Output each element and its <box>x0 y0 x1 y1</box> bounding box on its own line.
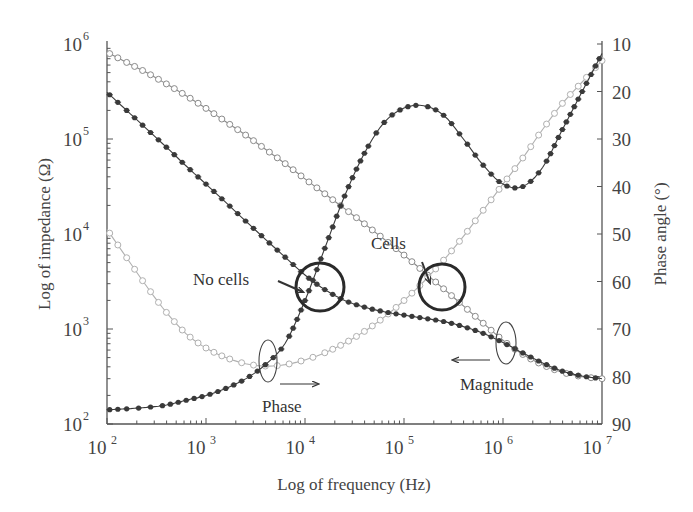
y2-tick-label: 10 <box>612 34 631 55</box>
data-point-marker <box>203 105 209 111</box>
data-point-marker <box>361 328 367 334</box>
data-point-marker <box>310 354 316 360</box>
data-point-marker <box>171 86 177 92</box>
data-point-marker <box>322 191 328 197</box>
data-point-marker <box>353 215 359 221</box>
data-point-marker <box>132 63 138 69</box>
y-tick-label: 10 <box>63 414 82 435</box>
data-point-marker <box>353 333 359 339</box>
data-point-marker <box>227 356 233 362</box>
y2-tick-label: 60 <box>612 272 631 293</box>
data-point-marker <box>369 227 375 233</box>
data-point-marker <box>282 161 288 167</box>
y-tick-exponent: 6 <box>83 29 89 43</box>
data-point-marker <box>409 290 415 296</box>
data-point-marker <box>211 111 217 117</box>
y2-tick-label: 50 <box>612 224 631 245</box>
y2-tick-label: 70 <box>612 319 631 340</box>
x-tick-exponent: 4 <box>309 433 315 447</box>
data-point-marker <box>211 349 217 355</box>
data-point-marker <box>203 345 209 351</box>
y-tick-exponent: 4 <box>83 219 89 233</box>
data-point-marker <box>369 323 375 329</box>
y-tick-exponent: 2 <box>83 409 89 423</box>
data-point-marker <box>433 279 439 285</box>
data-point-marker <box>124 59 130 65</box>
data-point-marker <box>179 327 185 333</box>
data-point-marker <box>488 327 494 333</box>
x-tick-label: 10 <box>484 437 503 458</box>
series-line <box>107 61 602 367</box>
data-point-marker <box>195 100 201 106</box>
data-point-marker <box>219 353 225 359</box>
data-point-marker <box>290 167 296 173</box>
y-tick-label: 10 <box>63 319 82 340</box>
data-point-marker <box>472 313 478 319</box>
data-point-marker <box>219 116 225 122</box>
data-point-marker <box>528 144 534 150</box>
x-tick-label: 10 <box>286 437 305 458</box>
data-point-marker <box>456 238 462 244</box>
data-point-marker <box>179 90 185 96</box>
data-point-marker <box>346 209 352 215</box>
x-tick-label: 10 <box>583 437 602 458</box>
x-tick-exponent: 3 <box>210 433 216 447</box>
data-point-marker <box>536 132 542 138</box>
data-point-marker <box>107 230 113 236</box>
data-point-marker <box>148 289 154 295</box>
data-point-marker <box>551 110 557 116</box>
y-tick-exponent: 3 <box>83 314 89 328</box>
x-tick-label: 10 <box>187 437 206 458</box>
y-axis-title: Log of impedance (Ω) <box>35 158 54 310</box>
data-point-marker <box>286 361 292 367</box>
x-tick-exponent: 7 <box>606 433 612 447</box>
axes: 1020304050607080901021031041051061071021… <box>63 29 631 458</box>
y2-tick-label: 20 <box>612 82 631 103</box>
y-tick-label: 10 <box>63 224 82 245</box>
data-point-marker <box>480 320 486 326</box>
data-point-marker <box>306 179 312 185</box>
y-tick-exponent: 5 <box>83 124 89 138</box>
data-point-marker <box>243 132 249 138</box>
data-point-marker <box>115 55 121 61</box>
data-point-marker <box>417 265 423 271</box>
x-axis-title: Log of frequency (Hz) <box>277 475 430 494</box>
data-point-marker <box>575 83 581 89</box>
data-point-marker <box>314 185 320 191</box>
data-point-marker <box>107 51 113 57</box>
y2-tick-label: 40 <box>612 177 631 198</box>
data-point-marker <box>171 319 177 325</box>
series-line <box>107 54 602 410</box>
data-point-marker <box>346 338 352 344</box>
data-point-marker <box>124 255 130 261</box>
data-point-marker <box>298 358 304 364</box>
data-point-marker <box>441 286 447 292</box>
data-point-marker <box>559 100 565 106</box>
annotation-arrow <box>278 281 303 292</box>
data-point-marker <box>377 317 383 323</box>
data-point-marker <box>140 67 146 73</box>
y2-tick-label: 30 <box>612 129 631 150</box>
y2-tick-label: 80 <box>612 367 631 388</box>
data-point-marker <box>480 207 486 213</box>
annotation-label: Cells <box>371 234 406 253</box>
data-point-marker <box>464 228 470 234</box>
data-point-marker <box>488 197 494 203</box>
data-series <box>106 51 605 413</box>
data-point-marker <box>504 176 510 182</box>
data-point-marker <box>567 91 573 97</box>
data-point-marker <box>330 346 336 352</box>
x-tick-label: 10 <box>88 437 107 458</box>
x-tick-exponent: 2 <box>111 433 117 447</box>
data-point-marker <box>187 95 193 101</box>
data-point-marker <box>258 143 264 149</box>
data-point-marker <box>140 278 146 284</box>
data-point-marker <box>449 248 455 254</box>
highlight-ellipse <box>259 340 277 382</box>
data-point-marker <box>163 81 169 87</box>
data-point-marker <box>187 334 193 340</box>
data-point-marker <box>449 293 455 299</box>
data-point-marker <box>155 76 161 82</box>
data-point-marker <box>239 360 245 366</box>
data-point-marker <box>512 166 518 172</box>
